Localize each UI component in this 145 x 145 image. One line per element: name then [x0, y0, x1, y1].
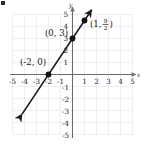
y-tick: -4: [62, 119, 69, 128]
graph-figure: x y -5 -4 -3 -2 -1 1 2 3 4 5 5 4 3 2 1 -…: [0, 0, 145, 145]
point-y-intercept: [70, 36, 76, 42]
label-open-paren-x: (1,: [90, 19, 102, 29]
x-tick: 4: [118, 77, 123, 86]
y-tick: -1: [62, 83, 69, 92]
point-one-nine-halves: [82, 18, 88, 24]
y-tick: 5: [63, 10, 68, 19]
y-axis-label: y: [68, 1, 73, 9]
label-close-paren: ): [110, 19, 113, 29]
y-tick: 1: [63, 58, 68, 67]
y-tick: -3: [62, 107, 69, 116]
x-tick: -5: [9, 77, 16, 86]
label-y-intercept: (0, 3): [45, 28, 68, 38]
label-one-nine-halves: (1, 9 2 ): [90, 18, 113, 32]
y-tick: -2: [62, 95, 69, 104]
coordinate-plane: x y -5 -4 -3 -2 -1 1 2 3 4 5 5 4 3 2 1 -…: [0, 0, 145, 145]
y-tick: -5: [62, 131, 69, 140]
x-tick: 3: [106, 77, 111, 86]
fraction-denominator: 2: [104, 25, 108, 31]
x-tick: -4: [21, 77, 28, 86]
fraction-numerator: 9: [104, 18, 108, 24]
x-axis-label: x: [137, 71, 141, 79]
x-tick: 5: [130, 77, 135, 86]
x-tick: 2: [94, 77, 99, 86]
label-x-intercept: (-2, 0): [20, 57, 46, 67]
point-x-intercept: [46, 72, 52, 78]
x-tick: -3: [33, 77, 40, 86]
x-tick: 1: [82, 77, 87, 86]
